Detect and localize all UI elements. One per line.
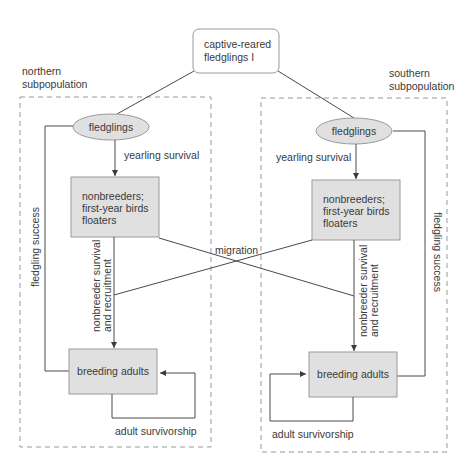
southern-yearling-survival-label: yearling survival — [276, 151, 351, 163]
captive-to-southern-line — [278, 71, 354, 118]
southern-nonbreeders-line1: nonbreeders; — [323, 193, 385, 205]
migration-label: migration — [215, 244, 258, 256]
captive-reared-line1: captive-reared — [204, 38, 271, 50]
southern-label-line1: southern — [389, 67, 430, 79]
southern-fledgling-success-line — [393, 131, 425, 376]
southern-fledgling-success-label: fledgling success — [432, 212, 444, 292]
northern-nonbreeders-line2: first-year birds — [82, 202, 149, 214]
northern-nonbreeders-line3: floaters — [82, 214, 116, 226]
northern-nonbreeders-line1: nonbreeders; — [82, 190, 144, 202]
northern-breeding-adults-label: breeding adults — [77, 365, 149, 377]
northern-fledgling-success-line — [45, 126, 73, 371]
southern-nonbreeder-survival-line2: and recruitment — [368, 264, 380, 337]
captive-to-northern-line — [117, 71, 194, 114]
population-flow-diagram: northern subpopulation southern subpopul… — [0, 0, 468, 469]
northern-yearling-survival-label: yearling survival — [124, 149, 199, 161]
southern-label-line2: subpopulation — [389, 80, 455, 92]
southern-breeding-adults-label: breeding adults — [317, 368, 389, 380]
northern-label-line1: northern — [22, 65, 61, 77]
northern-fledgling-success-label: fledgling success — [29, 207, 41, 287]
migration-south-to-north-line — [114, 240, 312, 295]
southern-nonbreeders-line2: first-year birds — [323, 205, 390, 217]
northern-nonbreeder-survival-line2: and recruitment — [101, 259, 113, 332]
northern-adult-survivorship-label: adult survivorship — [115, 425, 197, 437]
southern-fledglings-label: fledglings — [332, 125, 376, 137]
southern-adult-survivorship-label: adult survivorship — [272, 428, 354, 440]
northern-label-line2: subpopulation — [22, 78, 88, 90]
captive-reared-line2: fledglings I — [204, 51, 254, 63]
northern-fledglings-label: fledglings — [89, 121, 133, 133]
southern-nonbreeders-line3: floaters — [323, 217, 357, 229]
